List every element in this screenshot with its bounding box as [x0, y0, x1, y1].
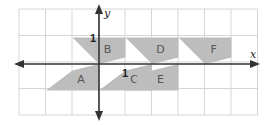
diagram-canvas: ABCDEF y x 1 1	[0, 0, 268, 125]
shape-label-d: D	[156, 43, 164, 56]
y-axis-label: y	[103, 7, 111, 20]
x-axis-right-arrow-icon	[250, 60, 260, 68]
shape-label-b: B	[104, 43, 112, 56]
shape-label-a: A	[77, 73, 85, 86]
coordinate-diagram: ABCDEF y x 1 1	[0, 0, 268, 125]
y-axis-down-arrow-icon	[95, 111, 103, 121]
grid	[19, 9, 258, 115]
shape-label-f: F	[210, 43, 216, 56]
shape-f	[179, 38, 232, 65]
shape-d	[126, 38, 179, 65]
y-tick-label: 1	[90, 32, 96, 44]
x-tick-label: 1	[122, 67, 128, 79]
x-axis-label: x	[250, 48, 257, 61]
shape-label-e: E	[157, 73, 164, 86]
